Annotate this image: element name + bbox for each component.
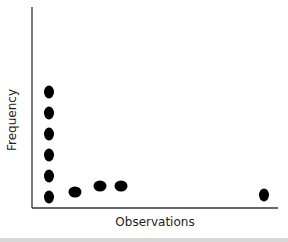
data-point — [44, 128, 54, 141]
data-point — [69, 187, 82, 198]
data-point — [44, 170, 54, 183]
data-point — [44, 191, 54, 204]
y-axis-label: Frequency — [5, 89, 19, 151]
scatter-plot — [0, 0, 288, 242]
data-point — [44, 107, 54, 120]
data-point — [94, 181, 107, 192]
bottom-border — [0, 238, 288, 242]
data-points — [44, 86, 269, 204]
data-point — [44, 149, 54, 162]
data-point — [115, 181, 128, 192]
data-point — [44, 86, 54, 99]
x-axis-label: Observations — [32, 215, 278, 229]
y-axis-label-box: Frequency — [2, 80, 22, 160]
data-point — [259, 189, 269, 202]
